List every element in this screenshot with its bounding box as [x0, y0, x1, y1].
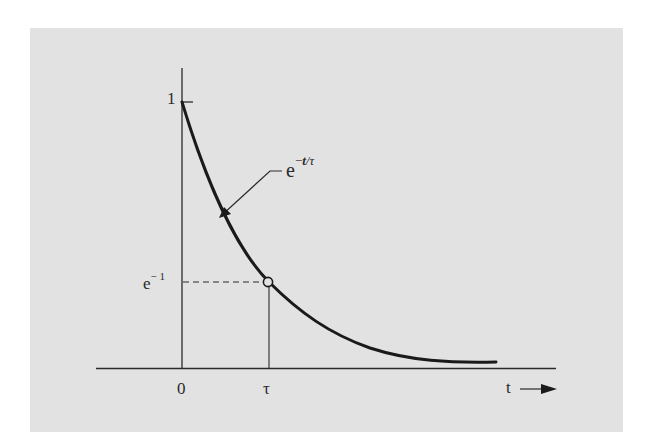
tau-point-marker [263, 277, 272, 286]
x-label-zero: 0 [177, 380, 186, 397]
curve-label-leader [222, 171, 282, 215]
decay-plot [0, 0, 651, 441]
e-inverse-base: e [143, 274, 151, 293]
x-label-zero-text: 0 [177, 379, 186, 398]
decay-curve [182, 102, 496, 362]
curve-label-exp-rest: /τ [306, 153, 314, 168]
t-arrow-head-icon [541, 384, 557, 394]
y-label-e-inverse: e− 1 [143, 273, 165, 292]
curve-label: e−t/τ [286, 158, 314, 180]
e-inverse-exponent: − 1 [151, 270, 165, 282]
y-label-one: 1 [167, 90, 176, 107]
curve-label-base: e [286, 159, 295, 181]
x-label-tau: τ [263, 380, 270, 397]
x-label-tau-text: τ [263, 379, 270, 398]
x-label-t-text: t [506, 378, 511, 397]
y-label-one-text: 1 [167, 89, 176, 108]
x-label-t: t [506, 379, 511, 396]
